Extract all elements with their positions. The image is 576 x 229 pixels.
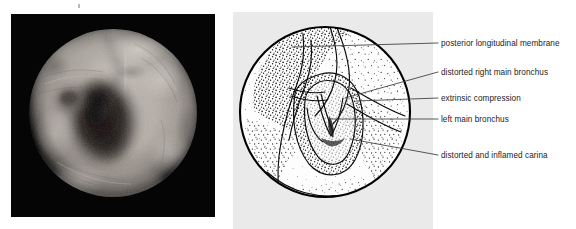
endoscopic-photograph-panel xyxy=(11,14,215,217)
endoscopic-photograph-image xyxy=(11,14,215,217)
label-left-main-bronchus: left main bronchus xyxy=(441,115,509,125)
label-distorted-and-inflamed-carina: distorted and inflamed carina xyxy=(441,151,548,161)
label-posterior-longitudinal-membrane: posterior longitudinal membrane xyxy=(441,39,560,49)
label-extrinsic-compression: extrinsic compression xyxy=(441,94,521,104)
line-diagram-panel xyxy=(233,12,433,229)
figure-root: posterior longitudinal membrane distorte… xyxy=(0,0,576,229)
label-distorted-right-main-bronchus: distorted right main bronchus xyxy=(441,68,548,78)
print-speck xyxy=(78,4,80,8)
line-diagram-image xyxy=(233,12,433,229)
